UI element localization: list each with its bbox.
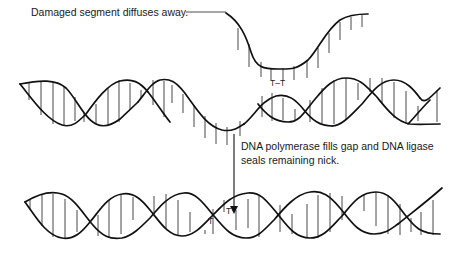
base-label-t-right: T (226, 206, 231, 216)
diagram-canvas: T–T (0, 0, 462, 254)
base-label-t-left: T (208, 216, 213, 226)
gapped-helix (20, 78, 440, 145)
dimer-label-top: T–T (270, 78, 285, 88)
process-arrow (230, 134, 238, 214)
damaged-segment: T–T (186, 12, 368, 88)
label-repair-step-line1: DNA polymerase fills gap and DNA ligase (241, 139, 434, 153)
label-damaged-segment: Damaged segment diffuses away. (31, 5, 188, 19)
dna-repair-diagram: T–T (0, 0, 462, 254)
label-repair-step-line2: seals remaining nick. (241, 153, 339, 167)
